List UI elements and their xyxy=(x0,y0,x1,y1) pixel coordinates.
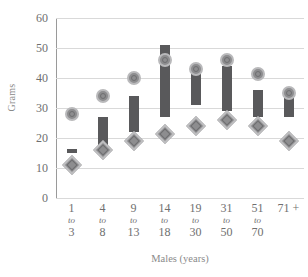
circle-marker xyxy=(220,53,234,67)
diamond-marker xyxy=(248,116,268,136)
range-bar xyxy=(222,66,232,111)
x-tick-range-start: 14 xyxy=(149,202,180,215)
x-tick-range-start: 71 + xyxy=(273,202,304,215)
x-tick-label: 1to3 xyxy=(56,202,87,239)
x-tick-label: 19to30 xyxy=(180,202,211,239)
y-tick-label: 40 xyxy=(26,72,48,84)
chart-container: Grams 0102030405060 1to34to89to1314to181… xyxy=(0,0,308,277)
x-tick-range-start: 9 xyxy=(118,202,149,215)
x-tick-label: 51to70 xyxy=(242,202,273,239)
diamond-marker xyxy=(62,155,82,175)
x-tick-label: 9to13 xyxy=(118,202,149,239)
circle-marker xyxy=(282,86,296,100)
data-group xyxy=(211,18,242,198)
y-tick-label: 30 xyxy=(26,102,48,114)
circle-marker xyxy=(189,62,203,76)
circle-marker xyxy=(158,53,172,67)
x-tick-range-start: 31 xyxy=(211,202,242,215)
data-group xyxy=(180,18,211,198)
x-tick-label: 71 + xyxy=(273,202,304,215)
x-axis-tick-labels: 1to34to89to1314to1819to3031to5051to7071 … xyxy=(56,202,304,252)
x-tick-range-start: 51 xyxy=(242,202,273,215)
data-group xyxy=(56,18,87,198)
data-group xyxy=(273,18,304,198)
plot-area: 0102030405060 xyxy=(56,18,304,198)
diamond-marker xyxy=(93,140,113,160)
range-bar xyxy=(67,149,77,153)
gridline xyxy=(56,198,304,199)
x-tick-range-end: 50 xyxy=(211,226,242,239)
x-tick-label: 31to50 xyxy=(211,202,242,239)
circle-marker xyxy=(251,67,265,81)
x-tick-range-start: 19 xyxy=(180,202,211,215)
circle-marker xyxy=(96,89,110,103)
x-tick-range-start: 4 xyxy=(87,202,118,215)
circle-marker xyxy=(65,107,79,121)
x-tick-range-start: 1 xyxy=(56,202,87,215)
diamond-marker xyxy=(155,124,175,144)
range-bar xyxy=(129,96,139,132)
y-tick-label: 0 xyxy=(26,192,48,204)
data-group xyxy=(87,18,118,198)
diamond-marker xyxy=(186,116,206,136)
x-tick-range-end: 30 xyxy=(180,226,211,239)
x-tick-range-end: 8 xyxy=(87,226,118,239)
diamond-marker xyxy=(124,131,144,151)
x-tick-range-end: 13 xyxy=(118,226,149,239)
x-tick-label: 4to8 xyxy=(87,202,118,239)
x-tick-label: 14to18 xyxy=(149,202,180,239)
range-bar xyxy=(253,90,263,117)
diamond-marker xyxy=(279,131,299,151)
x-tick-range-end: 70 xyxy=(242,226,273,239)
data-group xyxy=(118,18,149,198)
data-group xyxy=(242,18,273,198)
y-tick-label: 20 xyxy=(26,132,48,144)
y-tick-label: 10 xyxy=(26,162,48,174)
y-axis-title: Grams xyxy=(6,68,17,128)
circle-marker xyxy=(127,71,141,85)
data-group xyxy=(149,18,180,198)
x-tick-range-end: 3 xyxy=(56,226,87,239)
diamond-marker xyxy=(217,110,237,130)
x-tick-range-end: 18 xyxy=(149,226,180,239)
x-axis-title: Males (years) xyxy=(56,253,304,264)
y-tick-label: 60 xyxy=(26,12,48,24)
y-tick-label: 50 xyxy=(26,42,48,54)
